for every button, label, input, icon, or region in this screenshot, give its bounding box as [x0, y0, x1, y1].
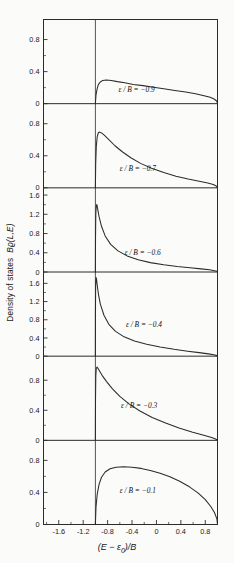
x-tick-label: -1.2: [77, 527, 90, 536]
dos-curve: [95, 132, 217, 188]
x-axis-label: (E − ε0)/B: [0, 542, 234, 554]
y-tick-label: 0.4: [29, 334, 39, 343]
panel-5: 00.40.8ε / B = −0.3: [29, 356, 217, 445]
y-tick-label: 1.2: [29, 297, 39, 306]
panel-annotation: ε / B = −0.4: [126, 320, 162, 329]
panel-4: 00.40.81.21.6ε / B = −0.4: [29, 272, 217, 361]
panel-2: 00.40.8ε / B = −0.7: [29, 104, 217, 193]
dos-curve: [95, 467, 217, 525]
multi-panel-plot: 00.40.8ε / B = −0.900.40.8ε / B = −0.700…: [0, 0, 234, 563]
y-tick-label: 0: [35, 352, 39, 361]
x-tick-label: -0.8: [101, 527, 114, 536]
y-tick-label: 0.4: [29, 151, 39, 160]
y-axis-label: Density of states Bϱ(L,E): [6, 153, 15, 393]
panel-1: 00.40.8ε / B = −0.9: [29, 20, 217, 109]
y-tick-label: 0: [35, 99, 39, 108]
x-tick-label: -1.6: [52, 527, 65, 536]
y-tick-label: 1.6: [29, 191, 39, 200]
y-tick-label: 0.4: [29, 248, 39, 257]
y-axis-label-wrap: Density of states Bϱ(L,E): [0, 0, 18, 563]
x-tick-label: -0.4: [126, 527, 139, 536]
y-tick-label: 0.4: [29, 406, 39, 415]
y-tick-label: 0.4: [29, 67, 39, 76]
panel-annotation: ε / B = −0.3: [121, 401, 157, 410]
panel-6: 00.40.8ε / B = −0.1: [29, 440, 217, 529]
y-tick-label: 0.8: [29, 456, 39, 465]
y-tick-label: 0: [35, 436, 39, 445]
figure-container: Density of states Bϱ(L,E) 00.40.8ε / B =…: [0, 0, 234, 563]
dos-curve: [95, 205, 217, 272]
y-tick-label: 0.8: [29, 315, 39, 324]
dos-curve: [95, 80, 217, 104]
y-tick-label: 1.2: [29, 210, 39, 219]
y-tick-label: 0: [35, 268, 39, 277]
panel-annotation: ε / B = −0.1: [120, 486, 156, 495]
y-tick-label: 0.8: [29, 119, 39, 128]
dos-curve: [95, 277, 217, 356]
y-tick-label: 0.8: [29, 35, 39, 44]
y-tick-label: 0.8: [29, 229, 39, 238]
panel-annotation: ε / B = −0.7: [120, 164, 156, 173]
panel-3: 00.40.81.21.6ε / B = −0.6: [29, 188, 217, 277]
y-tick-label: 1.6: [29, 279, 39, 288]
x-tick-label: 0: [154, 527, 158, 536]
panel-annotation: ε / B = −0.6: [125, 248, 161, 257]
x-tick-label: 0.4: [176, 527, 186, 536]
y-tick-label: 0: [35, 520, 39, 529]
x-tick-label: 0.8: [200, 527, 210, 536]
y-tick-label: 0.8: [29, 376, 39, 385]
panel-annotation: ε / B = −0.9: [119, 85, 155, 94]
x-axis: -1.6-1.2-0.8-0.400.40.8: [47, 520, 218, 536]
y-tick-label: 0.4: [29, 488, 39, 497]
